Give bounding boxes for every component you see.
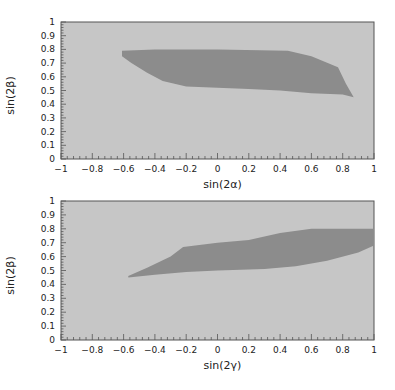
x-axis-label: sin(2γ): [204, 359, 242, 372]
y-tick-label: 0: [49, 154, 55, 164]
x-tick-label: −0.8: [81, 164, 103, 174]
y-tick-label: 0.5: [41, 86, 55, 96]
x-tick-label: 0: [215, 164, 221, 174]
y-tick-label: 0.5: [41, 266, 55, 276]
x-tick-label: 0: [215, 345, 221, 355]
x-tick-label: 1: [371, 345, 377, 355]
x-tick-label: 0.2: [242, 164, 256, 174]
y-tick-label: 0.6: [41, 252, 56, 262]
x-tick-label: −0.2: [175, 164, 197, 174]
y-tick-label: 0.6: [41, 72, 56, 82]
y-tick-label: 0.7: [41, 58, 55, 68]
chart-sin2gamma-vs-sin2beta: −1−0.8−0.6−0.4−0.200.20.40.60.8100.10.20…: [0, 179, 395, 390]
x-tick-label: −1: [54, 345, 67, 355]
x-tick-label: 0.8: [336, 345, 351, 355]
x-tick-label: −0.6: [113, 164, 135, 174]
y-tick-label: 0.7: [41, 238, 55, 248]
y-tick-label: 0.9: [41, 31, 56, 41]
x-tick-label: 1: [371, 164, 377, 174]
x-tick-label: 0.4: [273, 164, 288, 174]
y-tick-label: 0.2: [41, 127, 55, 137]
y-tick-label: 0.4: [41, 279, 56, 289]
x-tick-label: −0.6: [113, 345, 135, 355]
y-tick-label: 0.8: [41, 224, 56, 234]
y-tick-label: 0.1: [41, 321, 55, 331]
x-tick-label: 0.8: [336, 164, 351, 174]
y-tick-label: 0.1: [41, 140, 55, 150]
x-tick-label: 0.6: [304, 164, 319, 174]
chart-bottom-panel: −1−0.8−0.6−0.4−0.200.20.40.60.8100.10.20…: [0, 179, 395, 390]
x-tick-label: −0.4: [144, 164, 166, 174]
y-tick-label: 0.8: [41, 44, 56, 54]
x-tick-label: −0.8: [81, 345, 103, 355]
x-tick-label: 0.2: [242, 345, 256, 355]
y-tick-label: 0.3: [41, 113, 55, 123]
y-tick-label: 1: [49, 17, 55, 27]
y-tick-label: 0.2: [41, 307, 55, 317]
y-tick-label: 1: [49, 196, 55, 206]
y-tick-label: 0: [49, 335, 55, 345]
y-tick-label: 0.4: [41, 99, 56, 109]
x-tick-label: 0.4: [273, 345, 288, 355]
y-axis-label: sin(2β): [4, 76, 17, 114]
y-tick-label: 0.9: [41, 210, 56, 220]
x-tick-label: −1: [54, 164, 67, 174]
x-tick-label: −0.2: [175, 345, 197, 355]
y-axis-label: sin(2β): [4, 256, 17, 294]
y-tick-label: 0.3: [41, 293, 55, 303]
x-tick-label: −0.4: [144, 345, 166, 355]
chart-top-panel: −1−0.8−0.6−0.4−0.200.20.40.60.8100.10.20…: [0, 0, 395, 195]
chart-sin2alpha-vs-sin2beta: −1−0.8−0.6−0.4−0.200.20.40.60.8100.10.20…: [0, 0, 395, 195]
x-tick-label: 0.6: [304, 345, 319, 355]
